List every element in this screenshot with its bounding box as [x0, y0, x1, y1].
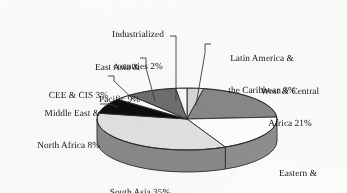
- label-west-central-africa-line1: West & Central: [240, 87, 340, 98]
- label-middle-east-north-africa-line2: North Africa 8%: [2, 141, 100, 152]
- pie-chart-figure: Industrialized countries 2% Latin Americ…: [0, 0, 347, 193]
- label-east-asia-pacific: East Asia & Pacific 9%: [52, 42, 140, 127]
- label-west-central-africa: West & Central Africa 21%: [240, 66, 340, 151]
- label-west-central-africa-line2: Africa 21%: [240, 119, 340, 130]
- label-east-asia-pacific-line1: East Asia &: [52, 63, 140, 74]
- label-eastern-southern-africa: Eastern & Southern Africa 19%: [252, 148, 344, 193]
- label-east-asia-pacific-line2: Pacific 9%: [52, 95, 140, 106]
- label-south-asia: South Asia 35%: [86, 167, 194, 193]
- label-industrialized-countries-line1: Industrialized: [86, 30, 190, 41]
- label-south-asia-line1: South Asia 35%: [86, 188, 194, 193]
- label-latin-america-caribbean-line1: Latin America &: [206, 54, 318, 65]
- label-eastern-southern-africa-line1: Eastern &: [252, 169, 344, 180]
